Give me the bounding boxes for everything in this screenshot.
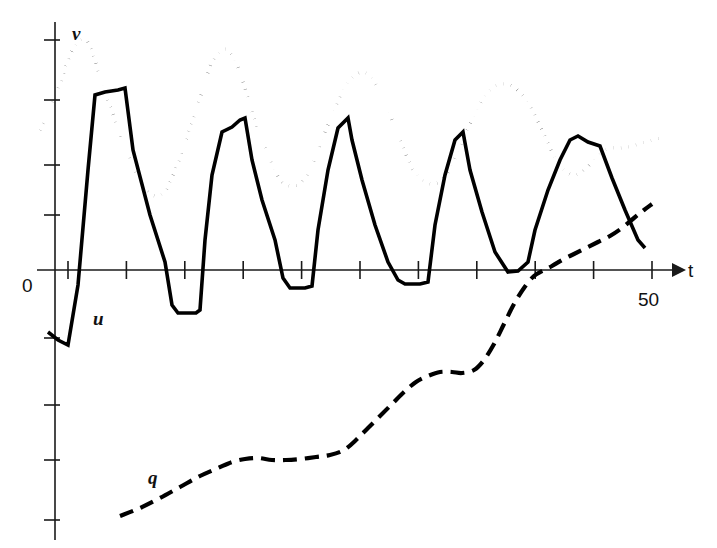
origin-tick-label: 0 <box>22 275 33 296</box>
x-axis-name-label: t <box>688 260 694 281</box>
x-tick-label-50: 50 <box>638 289 659 310</box>
curve-label-q: q <box>148 467 158 488</box>
curve-q-dashed <box>120 204 652 516</box>
plot-canvas: v u q 0 50 t <box>0 0 717 548</box>
x-axis-arrow-icon <box>672 263 686 277</box>
curve-v-dotted <box>40 39 660 196</box>
curve-u-solid <box>48 88 645 345</box>
y-axis-ticks <box>44 40 60 520</box>
axes-group <box>37 22 686 540</box>
curve-label-v: v <box>72 23 81 44</box>
curve-label-u: u <box>93 308 104 329</box>
chart-figure: v u q 0 50 t <box>0 0 717 548</box>
